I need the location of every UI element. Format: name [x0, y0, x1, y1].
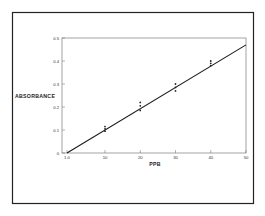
- data-point: [175, 90, 177, 92]
- plot-area: [62, 38, 246, 153]
- outer-frame: [13, 13, 254, 204]
- x-tick-label: 10: [103, 155, 108, 160]
- x-axis-title: PPB: [149, 161, 161, 167]
- y-tick-label: 0: [57, 151, 60, 156]
- y-axis-title: ABSORBANCE: [15, 93, 55, 99]
- x-tick-label: 40: [208, 155, 213, 160]
- x-tick-label: 20: [138, 155, 143, 160]
- x-axis-ticks: 1.01020304050: [64, 150, 249, 160]
- data-point: [210, 62, 212, 64]
- y-tick-label: 0.4: [53, 59, 59, 64]
- fit-line: [67, 45, 246, 153]
- y-tick-label: 0.1: [53, 128, 59, 133]
- data-point: [139, 105, 141, 107]
- x-tick-label: 1.0: [64, 155, 70, 160]
- data-point: [104, 130, 106, 132]
- y-tick-label: 0.5: [53, 36, 59, 41]
- data-point: [210, 65, 212, 67]
- regression-line: [67, 45, 246, 153]
- x-tick-label: 50: [244, 155, 249, 160]
- data-point: [104, 128, 106, 130]
- data-point: [139, 102, 141, 104]
- y-tick-label: 0.2: [53, 105, 59, 110]
- data-point: [175, 87, 177, 89]
- y-tick-label: 0.3: [53, 82, 59, 87]
- data-point: [210, 60, 212, 62]
- data-point: [104, 126, 106, 128]
- chart-figure: 00.10.20.30.40.5 1.01020304050 ABSORBANC…: [0, 0, 265, 216]
- data-point: [139, 110, 141, 112]
- data-point: [175, 83, 177, 85]
- x-tick-label: 30: [173, 155, 178, 160]
